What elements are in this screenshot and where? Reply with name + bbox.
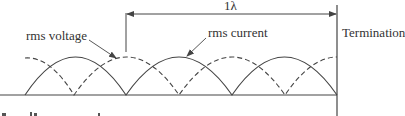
- termination-label: Termination: [342, 25, 405, 40]
- wavelength-label: 1λ: [224, 0, 238, 13]
- rms-voltage-leader: [89, 40, 116, 58]
- rms-current-leader: [187, 38, 206, 56]
- rms-voltage-curve: [25, 57, 337, 95]
- rms-voltage-label: rms voltage: [26, 28, 87, 43]
- rms-current-curve: [25, 57, 337, 95]
- cropped-caption-fragment: [2, 112, 100, 116]
- rms-current-label: rms current: [208, 25, 268, 40]
- standing-wave-diagram: 1λ rms voltage rms current Termination: [0, 0, 405, 116]
